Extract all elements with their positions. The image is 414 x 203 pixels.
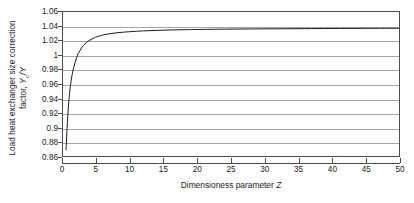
y-axis-tick-label: 1.06 bbox=[42, 7, 58, 16]
chart-figure: Load heat exchanger size correctionfacto… bbox=[0, 0, 414, 203]
x-axis-tick-label: 45 bbox=[362, 165, 371, 174]
x-axis-tick-label: 0 bbox=[60, 165, 65, 174]
y-axis-tick-label: 0.94 bbox=[42, 94, 58, 103]
x-axis-tick-mark bbox=[130, 158, 131, 163]
y-axis-tick-label: 0.96 bbox=[42, 80, 58, 89]
curve-svg bbox=[63, 12, 399, 156]
y-axis-title-line1: Load heat exchanger size correction bbox=[8, 20, 17, 156]
x-axis-tick-label: 20 bbox=[193, 165, 202, 174]
y-axis-tick-label: 1.02 bbox=[42, 36, 58, 45]
x-axis-tick-mark bbox=[163, 158, 164, 163]
plot-area bbox=[62, 11, 400, 157]
x-axis-tick-mark bbox=[62, 158, 63, 163]
x-axis-tick-label: 15 bbox=[159, 165, 168, 174]
x-axis-tick-mark bbox=[332, 158, 333, 163]
x-axis-title: Dimensioness parameter Z bbox=[62, 180, 400, 190]
y-axis-tick-label: 1.04 bbox=[42, 21, 58, 30]
x-axis-tick-mark bbox=[299, 158, 300, 163]
x-axis-tick-label: 10 bbox=[125, 165, 134, 174]
x-axis-tick-label: 35 bbox=[294, 165, 303, 174]
x-axis-symbol-z: Z bbox=[276, 180, 281, 190]
y-axis-tick-label: 0.98 bbox=[42, 65, 58, 74]
y-axis-tick-label: 0.86 bbox=[42, 153, 58, 162]
data-series-line bbox=[66, 28, 399, 150]
x-axis-tick-mark bbox=[265, 158, 266, 163]
x-axis-tick-label: 30 bbox=[260, 165, 269, 174]
y-axis-tick-label: 0.9 bbox=[47, 123, 58, 132]
x-axis-tick-label: 50 bbox=[395, 165, 404, 174]
x-axis-line bbox=[62, 163, 400, 164]
x-axis-tick-mark bbox=[366, 158, 367, 163]
y-axis-tick-label: 0.92 bbox=[42, 109, 58, 118]
y-axis-tick-label: 0.88 bbox=[42, 138, 58, 147]
y-axis-tick-labels: 1.061.041.0210.980.960.940.920.90.880.86 bbox=[26, 11, 58, 157]
x-axis-tick-label: 5 bbox=[94, 165, 99, 174]
x-axis-tick-mark bbox=[400, 158, 401, 163]
x-axis-tick-labels: 05101520253035404550 bbox=[62, 165, 400, 177]
x-axis-tick-label: 25 bbox=[226, 165, 235, 174]
x-axis-tick-mark bbox=[231, 158, 232, 163]
x-axis-tick-label: 40 bbox=[328, 165, 337, 174]
x-axis-title-text: Dimensioness parameter bbox=[181, 180, 276, 190]
x-axis-tick-mark bbox=[96, 158, 97, 163]
x-axis-tick-mark bbox=[197, 158, 198, 163]
